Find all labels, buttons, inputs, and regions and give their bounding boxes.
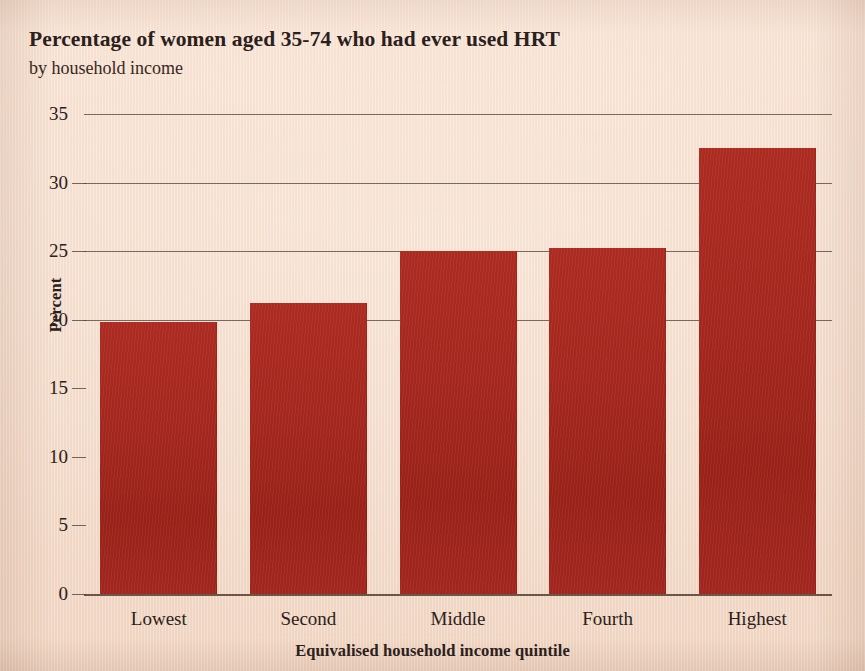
- x-axis-line: [84, 594, 832, 596]
- bar: [549, 248, 666, 594]
- x-axis-tick-label: Highest: [728, 608, 787, 630]
- y-axis-tick-label: 25: [20, 240, 68, 262]
- x-axis-tick-label: Second: [280, 608, 336, 630]
- gridline: [84, 114, 832, 115]
- y-axis-tick-label: 35: [20, 103, 68, 125]
- y-axis-tick-label: 10: [20, 446, 68, 468]
- y-axis-tick-mark: [72, 457, 86, 458]
- chart-figure: Percentage of women aged 35-74 who had e…: [0, 0, 865, 671]
- plot-area: [84, 114, 832, 594]
- y-axis-tick-mark: [72, 594, 86, 595]
- bar: [100, 322, 217, 594]
- bar: [250, 303, 367, 594]
- chart-title: Percentage of women aged 35-74 who had e…: [29, 27, 560, 52]
- y-axis-tick-label: 30: [20, 172, 68, 194]
- x-axis-tick-label: Lowest: [131, 608, 187, 630]
- y-axis-tick-mark: [72, 388, 86, 389]
- y-axis-tick-mark: [72, 525, 86, 526]
- x-axis-tick-label: Fourth: [582, 608, 633, 630]
- y-axis-tick-label: 20: [20, 309, 68, 331]
- y-axis-tick-label: 0: [20, 583, 68, 605]
- y-axis-tick-mark: [72, 320, 86, 321]
- x-axis-label: Equivalised household income quintile: [0, 641, 865, 661]
- y-axis-tick-label: 15: [20, 377, 68, 399]
- bar: [699, 148, 816, 594]
- bar: [400, 251, 517, 594]
- y-axis-tick-labels: 05101520253035: [0, 0, 68, 671]
- y-axis-tick-mark: [72, 183, 86, 184]
- y-axis-tick-label: 5: [20, 514, 68, 536]
- y-axis-tick-mark: [72, 251, 86, 252]
- x-axis-tick-label: Middle: [431, 608, 486, 630]
